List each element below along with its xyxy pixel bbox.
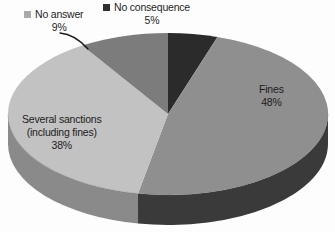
legend-label-no-consequence: No consequence: [114, 1, 190, 14]
legend-text-no-answer: No answer 9%: [35, 8, 83, 34]
pie-label-fines-name: Fines: [259, 83, 284, 96]
legend-label-no-answer: No answer: [35, 8, 83, 21]
pie-label-fines-value: 48%: [259, 96, 284, 109]
legend-item-no-consequence[interactable]: No consequence 5%: [103, 1, 190, 27]
pie-label-fines: Fines 48%: [259, 83, 284, 109]
legend-value-no-answer: 9%: [52, 21, 67, 34]
legend-swatch-no-answer: [24, 11, 31, 18]
legend-swatch-no-consequence: [103, 4, 110, 11]
legend-item-no-answer[interactable]: No answer 9%: [24, 8, 83, 34]
legend-value-no-consequence: 5%: [145, 14, 160, 27]
pie-label-several-sanctions-line1: Several sanctions: [22, 113, 101, 126]
legend-text-no-consequence: No consequence 5%: [114, 1, 190, 27]
pie-chart-figure: No answer 9% No consequence 5% Fines 48%…: [0, 0, 335, 232]
pie-label-several-sanctions-value: 38%: [22, 139, 101, 152]
pie-label-several-sanctions: Several sanctions (including fines) 38%: [22, 113, 101, 152]
pie-label-several-sanctions-line2: (including fines): [22, 126, 101, 139]
